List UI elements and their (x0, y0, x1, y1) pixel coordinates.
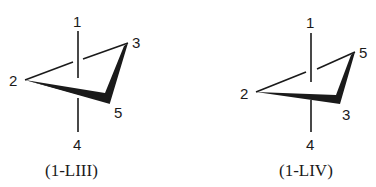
label-top: 1 (306, 14, 314, 31)
caption: (1-LIV) (279, 161, 333, 180)
label-lower-right: 5 (114, 104, 122, 121)
back-edge-left (256, 72, 306, 92)
label-bottom: 4 (306, 136, 314, 153)
label-bottom: 4 (73, 136, 81, 153)
figure-1-LIV: 1 2 5 3 4 (1-LIV) (240, 14, 367, 180)
figure-1-LIII: 1 2 3 5 4 (1-LIII) (9, 13, 140, 180)
label-upper-right: 5 (359, 44, 367, 61)
label-left: 2 (240, 85, 248, 102)
label-upper-right: 3 (132, 34, 140, 51)
diagram-canvas: 1 2 3 5 4 (1-LIII) 1 2 5 3 4 (1-LIV) (0, 0, 376, 187)
label-lower-right: 3 (342, 106, 350, 123)
label-left: 2 (9, 72, 17, 89)
caption: (1-LIII) (45, 161, 98, 180)
wedge-front (256, 52, 355, 104)
back-edge-left (25, 62, 73, 80)
label-top: 1 (73, 13, 81, 30)
